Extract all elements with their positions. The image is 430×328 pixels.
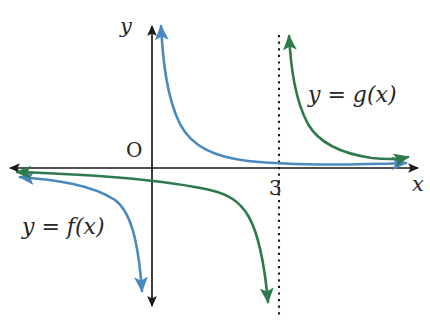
curve-f-label: y = f(x) [22,216,105,238]
origin-label: O [126,140,142,160]
curve-g-label: y = g(x) [308,84,397,106]
x-axis-label: x [412,174,424,195]
graph-plot-area [0,0,430,328]
x-axis-tick-label-3: 3 [269,178,282,198]
math-figure-canvas: y x O 3 y = f(x) y = g(x) [0,0,430,328]
y-axis-label: y [120,16,132,37]
